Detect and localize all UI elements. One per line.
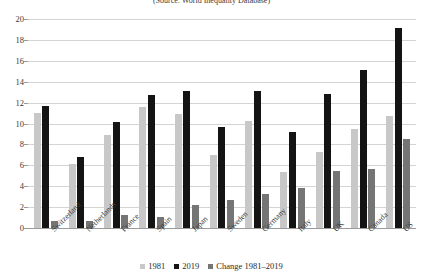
- bar-group: [275, 19, 310, 228]
- plot-area: 02468101214161820: [28, 19, 416, 228]
- bar: [254, 91, 261, 228]
- legend-swatch-icon: [140, 264, 145, 269]
- legend-label: 1981: [148, 262, 165, 271]
- bar: [148, 95, 155, 228]
- x-axis-label-france: France: [120, 228, 126, 234]
- bar: [316, 152, 323, 228]
- y-tick-label-20: 20: [2, 15, 24, 24]
- legend-swatch-icon: [174, 264, 179, 269]
- legend-swatch-icon: [208, 264, 213, 269]
- bar-chart-figure: (Source: World Inequality Database) 0246…: [0, 0, 423, 278]
- x-axis-label-switzerland: Switzerland: [50, 228, 56, 234]
- y-tick-label-8: 8: [2, 140, 24, 149]
- bar: [360, 70, 367, 228]
- y-tick-label-18: 18: [2, 36, 24, 45]
- x-axis-label-italy: Italy: [297, 228, 303, 234]
- bar: [386, 116, 393, 228]
- y-tick-label-14: 14: [2, 78, 24, 87]
- chart-legend: 19812019Change 1981–2019: [0, 262, 423, 271]
- bar: [77, 157, 84, 228]
- x-axis-label-spain: Spain: [155, 228, 161, 234]
- bar-group: [310, 19, 345, 228]
- bar-group: [28, 19, 63, 228]
- legend-item[interactable]: 2019: [174, 262, 199, 271]
- bar: [280, 172, 287, 228]
- bar-group: [240, 19, 275, 228]
- legend-item[interactable]: 1981: [140, 262, 165, 271]
- x-axis-label-us: US: [402, 228, 408, 234]
- bar-group: [381, 19, 416, 228]
- bar: [351, 129, 358, 228]
- legend-item[interactable]: Change 1981–2019: [208, 262, 282, 271]
- y-tick-label-16: 16: [2, 57, 24, 66]
- y-tick-label-4: 4: [2, 182, 24, 191]
- x-axis-label-japan: Japan: [191, 228, 197, 234]
- chart-title: (Source: World Inequality Database): [0, 0, 423, 6]
- bar: [113, 122, 120, 228]
- bar: [403, 139, 410, 228]
- bar: [289, 132, 296, 228]
- legend-label: 2019: [182, 262, 199, 271]
- y-tick-label-2: 2: [2, 203, 24, 212]
- bar-group: [169, 19, 204, 228]
- x-axis-label-sweden: Sweden: [226, 228, 232, 234]
- bar-group: [204, 19, 239, 228]
- x-axis-label-canada: Canada: [367, 228, 373, 234]
- y-tick-label-10: 10: [2, 120, 24, 129]
- bar-group: [63, 19, 98, 228]
- bar: [139, 107, 146, 228]
- x-axis-label-germany: Germany: [261, 228, 267, 234]
- bar: [34, 113, 41, 228]
- x-axis-label-uk: UK: [332, 228, 338, 234]
- bar-group: [134, 19, 169, 228]
- y-tick-label-6: 6: [2, 161, 24, 170]
- x-axis-label-netherlands: Netherlands: [85, 228, 91, 234]
- bar: [210, 155, 217, 228]
- bar: [324, 94, 331, 228]
- bar: [42, 106, 49, 228]
- bar: [395, 28, 402, 228]
- bar: [218, 127, 225, 228]
- bars-layer: [28, 19, 416, 228]
- y-tick-label-0: 0: [2, 224, 24, 233]
- bar-group: [345, 19, 380, 228]
- legend-label: Change 1981–2019: [216, 262, 282, 271]
- y-tick-label-12: 12: [2, 99, 24, 108]
- bar: [183, 91, 190, 228]
- bar-group: [99, 19, 134, 228]
- bar: [175, 114, 182, 228]
